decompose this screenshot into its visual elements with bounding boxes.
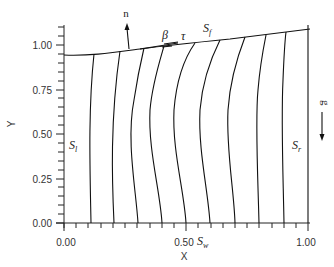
streamline-9: [282, 32, 286, 223]
y-tick-4: 1.00: [33, 40, 53, 51]
x-tick-0: 0.00: [56, 237, 76, 248]
x-axis: [56, 223, 310, 231]
y-tick-2: 0.50: [33, 129, 53, 140]
flow-diagram: 0.00 0.25 0.50 0.75 1.00 0.00 0.50 1.00 …: [0, 0, 334, 267]
y-tick-0: 0.00: [33, 218, 53, 229]
label-S-r: Sr: [292, 138, 302, 154]
label-tau: τ: [181, 29, 186, 43]
arrow-down-icon: [320, 134, 325, 141]
label-beta: β: [161, 28, 168, 42]
label-S-w: Sw: [197, 234, 209, 250]
y-axis: [56, 25, 64, 228]
streamline-8: [257, 35, 266, 223]
tangent-vector: β τ: [140, 28, 186, 49]
normal-vector: n: [123, 7, 129, 49]
label-S-l: Sl: [69, 138, 78, 154]
x-axis-title: X: [181, 251, 188, 262]
arrow-up-icon: [125, 23, 130, 30]
label-n: n: [123, 7, 129, 19]
gravity-indicator: g: [320, 100, 333, 141]
label-S-f: Sf: [203, 21, 213, 37]
y-tick-1: 0.25: [33, 174, 53, 185]
streamline-3: [131, 48, 144, 223]
y-tick-3: 0.75: [33, 85, 53, 96]
streamline-2: [112, 51, 120, 223]
x-tick-2: 1.00: [296, 237, 316, 248]
y-axis-title: Y: [6, 120, 17, 127]
streamline-7: [228, 37, 245, 223]
streamline-4: [150, 46, 164, 223]
streamline-1: [90, 54, 94, 223]
streamline-6: [200, 40, 220, 223]
label-g: g: [320, 100, 332, 106]
streamline-5: [174, 43, 195, 223]
x-tick-1: 0.50: [174, 237, 194, 248]
free-surface-line: [64, 29, 310, 55]
